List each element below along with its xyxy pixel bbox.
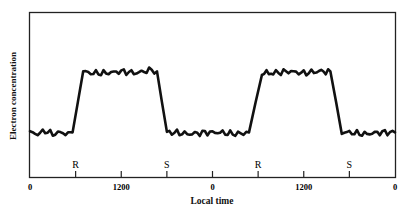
x-axis-ticks: [76, 171, 350, 177]
sunrise-marker: R: [72, 159, 79, 170]
x-tick-label: 0: [210, 182, 214, 192]
x-axis-label: Local time: [190, 196, 233, 206]
x-tick-label: 0: [393, 182, 397, 192]
sunrise-sunset-annotations: RSRS: [72, 159, 352, 170]
x-tick-label: 1200: [113, 182, 130, 192]
sunset-marker: S: [164, 159, 170, 170]
chart-svg: 01200012000 RSRS: [0, 0, 408, 216]
plot-frame: [30, 13, 396, 178]
electron-concentration-line: [30, 68, 395, 137]
x-axis-tick-labels: 01200012000: [28, 182, 397, 192]
x-tick-label: 1200: [295, 182, 312, 192]
x-tick-label: 0: [28, 182, 32, 192]
y-axis-label: Electron concentration: [8, 52, 18, 140]
sunset-marker: S: [347, 159, 353, 170]
sunrise-marker: R: [255, 159, 262, 170]
